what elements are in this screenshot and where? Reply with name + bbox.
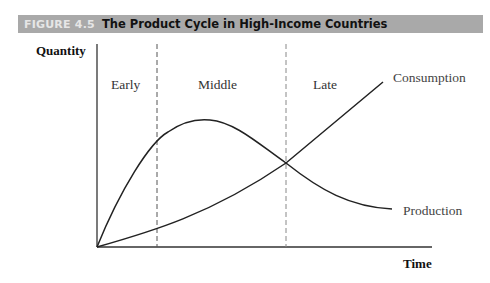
y-axis-label: Quantity xyxy=(36,43,86,58)
production-label: Production xyxy=(403,203,462,218)
phase-label-early: Early xyxy=(111,77,140,92)
production-curve xyxy=(97,120,392,247)
x-axis-label: Time xyxy=(403,256,432,271)
product-cycle-diagram: Quantity Time Early Middle Late Consumpt… xyxy=(0,0,490,283)
phase-label-late: Late xyxy=(313,77,337,92)
consumption-label: Consumption xyxy=(393,70,466,85)
phase-label-middle: Middle xyxy=(198,77,237,92)
